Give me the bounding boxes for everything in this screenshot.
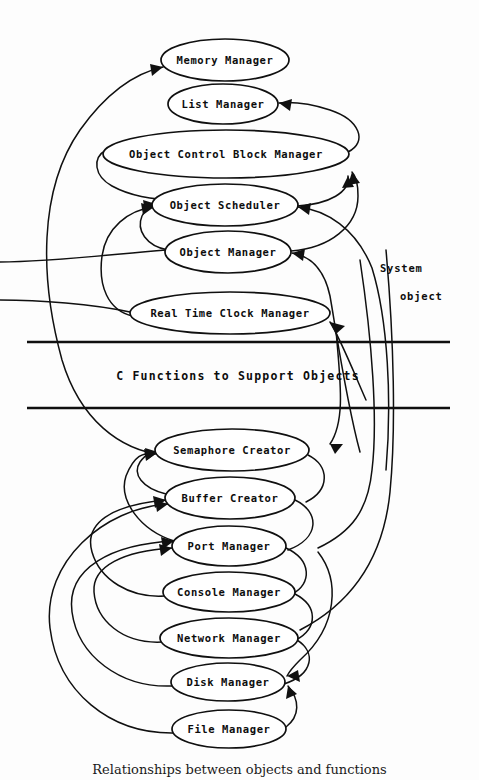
- system-object-label-line1: System: [380, 262, 423, 274]
- node-label-semaphore-creator: Semaphore Creator: [173, 444, 291, 456]
- relationship-diagram: Memory Manager List Manager Object Contr…: [0, 0, 479, 780]
- figure-container: Memory Manager List Manager Object Contr…: [0, 0, 479, 780]
- node-label-network-manager: Network Manager: [177, 632, 281, 644]
- node-disk-manager[interactable]: Disk Manager: [171, 663, 285, 701]
- arrowhead-list-manager: [279, 99, 292, 111]
- node-label-disk-manager: Disk Manager: [186, 676, 269, 688]
- edge-file-to-buffer: [49, 504, 174, 733]
- edge-disk-to-port: [71, 541, 174, 686]
- node-label-real-time-clock-manager: Real Time Clock Manager: [150, 307, 309, 319]
- edge-console-right-lobe: [295, 594, 312, 640]
- node-object-manager[interactable]: Object Manager: [165, 231, 291, 273]
- node-memory-manager[interactable]: Memory Manager: [161, 39, 289, 81]
- arrowhead-semaphore-creator-c: [330, 444, 343, 454]
- node-label-console-manager: Console Manager: [177, 586, 281, 598]
- edge-scheduler-to-ocb: [297, 176, 348, 206]
- node-label-object-control-block-manager: Object Control Block Manager: [129, 148, 323, 160]
- node-semaphore-creator[interactable]: Semaphore Creator: [155, 429, 309, 471]
- node-real-time-clock-manager[interactable]: Real Time Clock Manager: [130, 292, 330, 334]
- node-object-control-block-manager[interactable]: Object Control Block Manager: [103, 130, 349, 178]
- edge-semaphore-to-memory: [47, 67, 163, 455]
- node-file-manager[interactable]: File Manager: [172, 710, 286, 748]
- edge-network-to-port: [94, 548, 172, 642]
- edge-rtc-right-inflow: [330, 322, 366, 400]
- edge-right-vertical-b: [318, 260, 374, 548]
- node-port-manager[interactable]: Port Manager: [172, 526, 286, 566]
- band-label-c-functions: C Functions to Support Objects: [116, 369, 360, 383]
- node-label-buffer-creator: Buffer Creator: [182, 492, 279, 504]
- node-list-manager[interactable]: List Manager: [168, 84, 278, 124]
- node-network-manager[interactable]: Network Manager: [160, 618, 298, 658]
- edge-rtc-to-object-scheduler: [101, 207, 154, 316]
- edge-system-to-object-manager: [292, 253, 360, 452]
- node-label-object-manager: Object Manager: [180, 246, 277, 258]
- edge-semaphore-right-lobe: [306, 455, 324, 502]
- edge-buffer-right-lobe: [288, 500, 313, 550]
- system-object-label-line2: object: [400, 290, 443, 302]
- node-label-memory-manager: Memory Manager: [177, 54, 274, 66]
- edge-rtc-left-lobe-2: [0, 250, 166, 262]
- node-label-list-manager: List Manager: [181, 98, 264, 110]
- node-object-scheduler[interactable]: Object Scheduler: [152, 184, 298, 226]
- figure-caption: Relationships between objects and functi…: [0, 762, 479, 777]
- node-label-port-manager: Port Manager: [187, 540, 270, 552]
- node-label-file-manager: File Manager: [187, 723, 270, 735]
- node-console-manager[interactable]: Console Manager: [163, 572, 295, 612]
- node-buffer-creator[interactable]: Buffer Creator: [165, 477, 295, 519]
- node-label-object-scheduler: Object Scheduler: [170, 199, 281, 211]
- arrowhead-rtc: [330, 322, 345, 334]
- arrowhead-memory-manager: [150, 64, 163, 76]
